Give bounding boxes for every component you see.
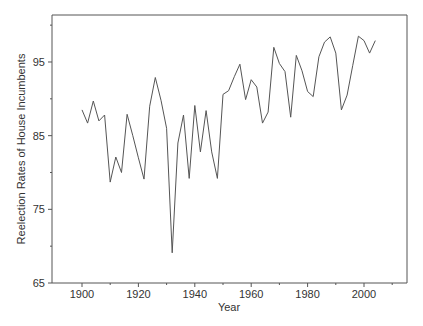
reelection-rate-line bbox=[82, 36, 375, 253]
x-tick-label: 1980 bbox=[295, 288, 319, 300]
y-tick-label: 75 bbox=[33, 203, 45, 215]
x-tick-label: 1940 bbox=[183, 288, 207, 300]
y-tick-label: 95 bbox=[33, 56, 45, 68]
x-tick-label: 2000 bbox=[352, 288, 376, 300]
line-chart: 190019201940196019802000 65758595 Year R… bbox=[0, 0, 423, 326]
y-axis-ticks: 65758595 bbox=[33, 25, 52, 289]
x-axis-ticks: 190019201940196019802000 bbox=[70, 283, 392, 300]
x-tick-label: 1920 bbox=[126, 288, 150, 300]
x-axis-label: Year bbox=[218, 301, 241, 313]
y-tick-label: 85 bbox=[33, 130, 45, 142]
plot-frame bbox=[52, 15, 407, 283]
x-tick-label: 1960 bbox=[239, 288, 263, 300]
y-axis-label: Reelection Rates of House Incumbents bbox=[15, 53, 27, 244]
x-tick-label: 1900 bbox=[70, 288, 94, 300]
y-tick-label: 65 bbox=[33, 277, 45, 289]
